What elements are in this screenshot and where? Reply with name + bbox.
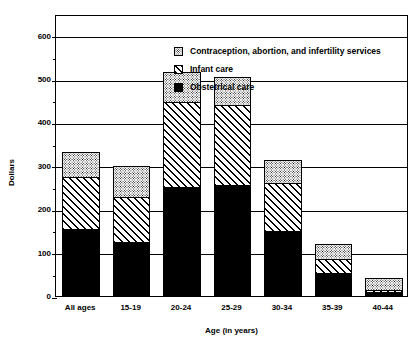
bar-group[interactable]	[62, 14, 100, 296]
bar-segment[interactable]	[62, 152, 100, 178]
y-axis-tick-label: 100	[25, 250, 51, 258]
plot-area: Contraception, abortion, and infertility…	[55, 15, 408, 297]
bar-segment[interactable]	[113, 166, 151, 198]
bar-segment[interactable]	[315, 273, 353, 296]
y-axis-tick-labels: 0100200300400500600	[21, 0, 51, 349]
bar-segment[interactable]	[113, 242, 151, 296]
y-axis-tick-mark	[52, 298, 57, 299]
y-axis-tick-label: 300	[25, 163, 51, 171]
legend-swatch-icon	[174, 83, 183, 92]
x-axis-tick-label: 35-39	[307, 303, 357, 312]
x-axis-tick-label: 30-34	[257, 303, 307, 312]
legend: Contraception, abortion, and infertility…	[174, 43, 419, 97]
y-axis-title: Dollars	[7, 143, 16, 203]
bar-segment[interactable]	[315, 259, 353, 274]
x-axis-title: Age (in years)	[55, 326, 408, 335]
x-axis-tick-label: All ages	[55, 303, 105, 312]
x-axis-tick-label: 20-24	[156, 303, 206, 312]
bar-segment[interactable]	[113, 197, 151, 243]
bar-segment[interactable]	[365, 278, 403, 291]
stacked-bar-chart: Dollars 0100200300400500600 Contraceptio…	[0, 0, 419, 349]
legend-item[interactable]: Infant care	[174, 61, 419, 77]
legend-swatch-icon	[174, 47, 183, 56]
legend-swatch-icon	[174, 65, 183, 74]
bar-segment[interactable]	[163, 102, 201, 188]
bar-segment[interactable]	[264, 231, 302, 296]
legend-item[interactable]: Contraception, abortion, and infertility…	[174, 43, 419, 59]
legend-item-label: Contraception, abortion, and infertility…	[190, 47, 381, 56]
y-axis-tick-label: 500	[25, 76, 51, 84]
bar-group[interactable]	[113, 14, 151, 296]
x-axis-tick-label: 40-44	[358, 303, 408, 312]
legend-item-label: Infant care	[190, 65, 233, 74]
bar-segment[interactable]	[264, 160, 302, 184]
bar-segment[interactable]	[62, 229, 100, 296]
y-axis-tick-label: 400	[25, 119, 51, 127]
bar-segment[interactable]	[62, 177, 100, 230]
x-axis-tick-label: 25-29	[206, 303, 256, 312]
y-axis-tick-label: 600	[25, 33, 51, 41]
bar-segment[interactable]	[264, 183, 302, 232]
y-axis-tick-label: 0	[25, 293, 51, 301]
legend-item-label: Obstetrical care	[190, 83, 254, 92]
x-axis-tick-label: 15-19	[105, 303, 155, 312]
bar-segment[interactable]	[214, 105, 252, 186]
legend-item[interactable]: Obstetrical care	[174, 79, 419, 95]
bar-segment[interactable]	[315, 244, 353, 260]
bar-segment[interactable]	[214, 185, 252, 296]
y-axis-tick-label: 200	[25, 206, 51, 214]
bar-segment[interactable]	[163, 187, 201, 296]
